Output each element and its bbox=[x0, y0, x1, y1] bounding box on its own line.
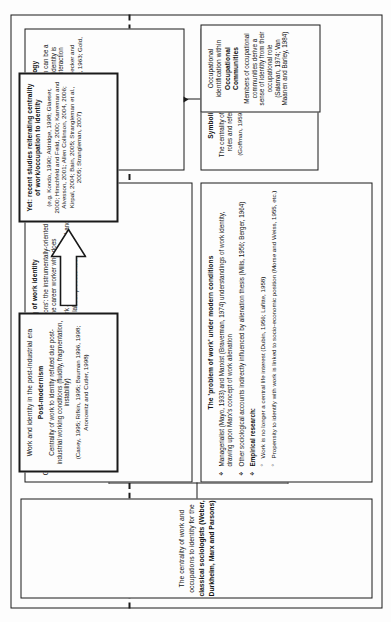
bullet-managerialist-marxist: Managerialist (Mayo, 1933) and Marxist (… bbox=[217, 189, 233, 475]
diagram-page: The centrality of work and occupations t… bbox=[0, 0, 391, 622]
box-symbolic-interactionism-heading: Symbolic Interactionism bbox=[206, 35, 214, 163]
box-problem-of-work-bullets: Managerialist (Mayo, 1933) and Marxist (… bbox=[217, 189, 277, 475]
diagram-title: The centrality of work and occupations t… bbox=[20, 498, 372, 598]
arrowhead-symbolic-to-occsoc bbox=[183, 96, 188, 102]
box-problem-of-work-heading: The 'problem of work' under modern condi… bbox=[206, 189, 214, 475]
subbullet-central-life-interest: Work is no longer a central life interes… bbox=[258, 189, 266, 466]
box-occupational-sociology: Occupational Sociology Every type of wor… bbox=[24, 28, 184, 170]
connector-title-stem bbox=[196, 482, 197, 498]
box-symbolic-interactionism: Symbolic Interactionism The centrality o… bbox=[200, 28, 318, 170]
box-symbolic-interactionism-citation: (Goffman, 1959, 1961, 1968; Sutherland, … bbox=[235, 35, 250, 163]
subbullet-socio-economic-position: Propensity to identify with work is link… bbox=[269, 189, 277, 466]
bullet-empirical-research-label: Empirical research: bbox=[248, 408, 255, 466]
box-problem-of-work: The 'problem of work' under modern condi… bbox=[200, 182, 372, 482]
box-occupational-sociology-citation: (Hughes, 1951, 1958, 1971; Becker and Ca… bbox=[67, 35, 90, 163]
empirical-research-subbullets: Work is no longer a central life interes… bbox=[258, 189, 276, 466]
rotated-diagram-canvas: The centrality of work and occupations t… bbox=[0, 0, 391, 622]
box-neo-weberian-body2: Refuting assumptions of alienation thesi… bbox=[62, 189, 77, 475]
diagram-title-line1: The centrality of work and occupations t… bbox=[176, 499, 196, 597]
box-neo-weberian-heading: Neo-Weberian understanding of work ident… bbox=[30, 189, 38, 475]
box-symbolic-interactionism-body: The centrality of pre-defined occupation… bbox=[217, 35, 232, 163]
bullet-other-sociological-accounts: Other sociological accounts indirectly i… bbox=[237, 189, 245, 475]
box-neo-weberian-body1: Goldthorpe et al's (1968) two 'ideal typ… bbox=[41, 189, 56, 475]
diagram-title-line2: classical sociologists (Weber, Durkheim,… bbox=[196, 499, 216, 597]
box-occupational-sociology-heading: Occupational Sociology bbox=[30, 35, 38, 163]
box-occupational-sociology-body: Every type of work/occupation can be a s… bbox=[41, 35, 64, 163]
bullet-empirical-research: Empirical research: Work is no longer a … bbox=[248, 189, 276, 475]
box-neo-weberian: Neo-Weberian understanding of work ident… bbox=[24, 182, 192, 482]
